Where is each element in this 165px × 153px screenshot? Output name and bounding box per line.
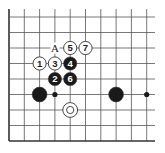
move-number: 4 xyxy=(68,58,74,69)
move-number: 1 xyxy=(37,58,43,69)
black-stone-icon xyxy=(109,87,124,102)
black-stone: 6 xyxy=(64,72,77,85)
board-grid xyxy=(9,9,155,141)
white-stone: 3 xyxy=(48,57,61,70)
point-label-a: A xyxy=(51,42,59,54)
white-stone: 7 xyxy=(79,41,92,54)
move-number: 2 xyxy=(52,73,57,84)
black-stone: 4 xyxy=(64,57,77,70)
black-stone xyxy=(109,87,124,102)
point-labels: A xyxy=(50,42,59,54)
move-number: 7 xyxy=(83,42,88,53)
black-stone: 2 xyxy=(48,72,61,85)
white-stone-icon xyxy=(63,103,78,118)
star-point-icon xyxy=(52,92,57,97)
move-number: 6 xyxy=(68,73,73,84)
black-stone xyxy=(32,87,47,102)
white-stone: 5 xyxy=(64,41,77,54)
move-number: 3 xyxy=(52,58,57,69)
star-point-icon xyxy=(144,92,149,97)
white-stone xyxy=(63,103,78,118)
move-number: 5 xyxy=(68,42,74,53)
black-stone-icon xyxy=(32,87,47,102)
white-stone: 1 xyxy=(33,57,46,70)
go-board-diagram: 5713426 A xyxy=(0,0,165,153)
